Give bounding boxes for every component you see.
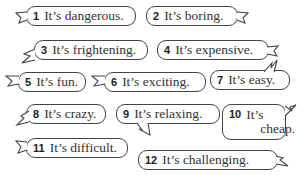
speech-tail-icon: [136, 122, 152, 136]
speech-tail-icon: [4, 74, 20, 88]
speech-tail-icon: [90, 74, 106, 88]
bubble-text: It’s relaxing.: [134, 106, 202, 122]
bubble-text: It’s fun.: [36, 74, 78, 90]
speech-bubble-4: 4 It’s expensive.: [157, 40, 269, 60]
speech-bubble-3: 3 It’s frightening.: [34, 40, 148, 60]
bubble-number: 9: [123, 108, 129, 120]
speech-bubble-1: 1 It’s dangerous.: [26, 6, 136, 26]
bubble-text: It’s exciting.: [122, 74, 190, 90]
bubble-number: 1: [33, 10, 39, 22]
bubble-number: 10: [229, 108, 241, 120]
bubble-text: It’s dangerous.: [44, 8, 123, 24]
speech-bubble-9: 9 It’s relaxing.: [116, 104, 220, 124]
bubble-number: 4: [164, 44, 170, 56]
speech-bubble-7: 7 It’s easy.: [210, 70, 290, 90]
speech-tail-icon: [14, 140, 28, 154]
speech-bubble-2: 2 It’s boring.: [146, 6, 238, 26]
speech-bubble-6: 6 It’s exciting.: [104, 72, 206, 92]
speech-tail-icon: [236, 10, 250, 24]
speech-bubble-11: 11 It’s difficult.: [26, 138, 128, 158]
speech-bubble-12: 12 It’s challenging.: [138, 150, 278, 170]
speech-tail-icon: [266, 44, 280, 58]
bubble-text: It’s frightening.: [52, 42, 136, 58]
bubble-number: 5: [25, 76, 31, 88]
speech-tail-icon: [262, 59, 278, 73]
speech-tail-icon: [275, 154, 289, 168]
bubble-text: It’s easy.: [228, 72, 275, 88]
bubble-text: It’s crazy.: [44, 106, 96, 122]
speech-tail-icon: [20, 48, 36, 64]
speech-tail-icon: [14, 10, 28, 24]
bubble-text-line2: cheap.: [246, 121, 295, 136]
bubble-number: 8: [33, 108, 39, 120]
bubble-number: 12: [145, 154, 157, 166]
bubble-text-line1: It’s: [246, 107, 263, 122]
speech-bubble-5: 5 It’s fun.: [18, 72, 86, 92]
speech-tail-icon: [284, 104, 298, 118]
bubble-text: It’s boring.: [164, 8, 223, 24]
bubble-number: 3: [41, 44, 47, 56]
bubble-number: 2: [153, 10, 159, 22]
speech-tail-icon: [16, 110, 30, 126]
bubble-text: It’s challenging.: [162, 152, 249, 168]
bubble-number: 7: [217, 74, 223, 86]
bubble-number: 11: [33, 142, 45, 154]
bubble-text: It’s difficult.: [50, 140, 117, 156]
bubble-number: 6: [111, 76, 117, 88]
speech-bubble-10: 10 It’s cheap.: [222, 104, 286, 140]
bubble-text: It’s expensive.: [175, 42, 253, 58]
speech-bubble-8: 8 It’s crazy.: [26, 104, 106, 124]
